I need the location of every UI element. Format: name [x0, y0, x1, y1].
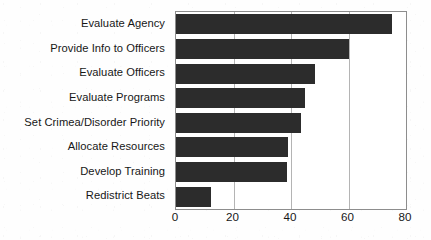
bar-slot [176, 12, 406, 37]
bar[interactable] [176, 64, 315, 84]
plot-area [175, 11, 407, 210]
category-axis-labels: Evaluate AgencyProvide Info to OfficersE… [0, 11, 170, 208]
bar-slot [176, 86, 406, 111]
bar[interactable] [176, 39, 349, 59]
bar-chart: Evaluate AgencyProvide Info to OfficersE… [0, 0, 431, 240]
category-label: Redistrict Beats [86, 183, 165, 208]
category-label: Set Crimea/Disorder Priority [24, 110, 165, 135]
bar-slot [176, 61, 406, 86]
bar[interactable] [176, 113, 301, 133]
category-label: Provide Info to Officers [50, 36, 165, 61]
bar[interactable] [176, 162, 287, 182]
bar[interactable] [176, 187, 211, 207]
category-label: Evaluate Officers [79, 60, 165, 85]
x-tick-label-60: 60 [341, 210, 354, 223]
bar-slot [176, 135, 406, 160]
category-label: Evaluate Agency [81, 11, 165, 36]
bar[interactable] [176, 14, 392, 34]
category-label: Evaluate Programs [69, 85, 165, 110]
category-label: Allocate Resources [68, 134, 165, 159]
bar-slot [176, 160, 406, 185]
bar-slot [176, 37, 406, 62]
x-tick-label-0: 0 [172, 210, 178, 223]
x-axis-tick-labels: 020406080 [175, 210, 405, 230]
bar-slot [176, 111, 406, 136]
x-tick-label-40: 40 [284, 210, 297, 223]
category-label: Develop Training [80, 159, 165, 184]
x-tick-label-20: 20 [226, 210, 239, 223]
bar-slot [176, 184, 406, 209]
bar[interactable] [176, 88, 305, 108]
bar[interactable] [176, 137, 288, 157]
x-tick-label-80: 80 [399, 210, 412, 223]
